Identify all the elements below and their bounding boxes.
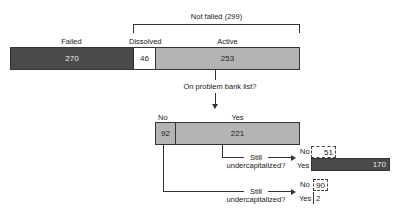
no-branch-horiz [163,191,244,192]
no-branch-question-2: undercapitalized? [222,195,290,204]
yes-branch-arrow-line [268,157,292,158]
yes-branch-question-2: undercapitalized? [222,161,290,170]
no-branch-yes-value: 2 [316,194,320,203]
bracket-left [133,24,134,33]
no-branch-down [163,145,164,192]
no-branch-no-label: No [300,180,310,189]
bracket-right [299,24,300,33]
arrow-down-icon [212,104,218,109]
no-branch-no-box: 90 [313,179,328,191]
arrow-right-icon [291,155,296,161]
not-failed-label: Not failed (299) [133,12,300,21]
second-yes-label: Yes [175,113,300,122]
bracket-top [133,24,300,25]
yes-branch-yes-label: Yes [297,161,309,170]
yes-branch-no-label: No [300,147,310,156]
active-segment: 253 [155,47,300,70]
no-branch-yes-bar [313,192,314,204]
active-down-line [215,70,216,80]
dissolved-segment: 46 [133,47,156,70]
failed-segment: 270 [10,47,134,70]
second-no-label: No [158,113,168,122]
problem-bank-question: On problem bank list? [150,82,290,91]
yes-branch-yes-bar: 170 [311,158,390,171]
no-branch-yes-label: Yes [299,194,311,203]
failed-label: Failed [10,37,133,46]
on-list-segment: 221 [175,122,300,145]
arrow-right-icon [291,189,296,195]
no-branch-arrow-line [268,191,292,192]
active-label: Active [155,37,300,46]
yes-branch-no-box: 51 [311,146,336,158]
not-on-list-segment: 92 [155,122,176,145]
